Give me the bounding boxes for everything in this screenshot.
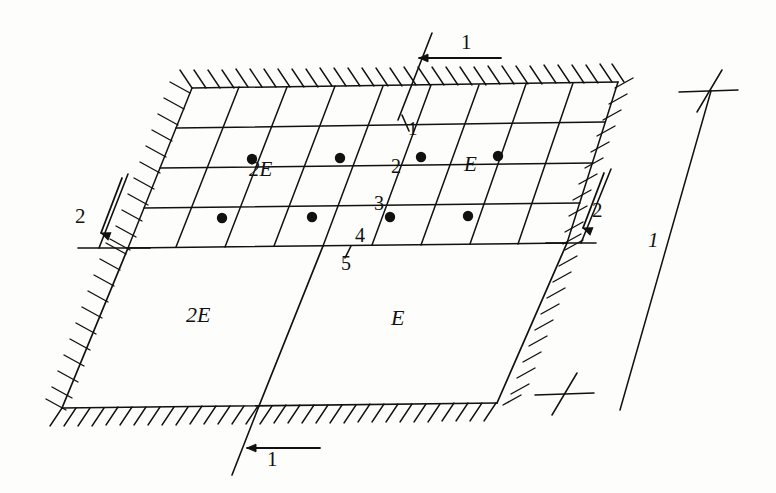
node-dot	[416, 152, 426, 162]
section-line-1-top	[398, 33, 432, 120]
mesh-region	[128, 82, 618, 248]
node-dot	[307, 212, 317, 222]
node-number-4: 4	[355, 224, 365, 247]
section-label-1-bottom: 1	[267, 447, 278, 472]
node-number-3: 3	[374, 192, 384, 215]
plain-region	[62, 243, 567, 408]
diagram-canvas: 1 1 2 2 1 1 2 3 4 5 2E E 2E E	[0, 0, 776, 493]
node-dot	[217, 213, 227, 223]
hatch-lower-left	[46, 243, 126, 410]
hatch-lower-right	[503, 240, 583, 405]
node-number-5: 5	[341, 252, 351, 275]
section-label-2-right: 2	[592, 198, 603, 223]
hatch-bottom	[50, 403, 496, 426]
mesh-label-E: E	[464, 152, 477, 177]
node-number-2: 2	[391, 155, 401, 178]
node-number-1: 1	[408, 118, 418, 140]
dimension-label: 1	[648, 228, 659, 253]
material-divider-lower	[259, 246, 323, 406]
diagram-vector-layer	[0, 0, 776, 493]
section-arrow-2-left	[101, 178, 122, 233]
plain-label-2E: 2E	[186, 302, 210, 328]
section-label-1-top: 1	[461, 30, 472, 55]
node-dot	[335, 153, 345, 163]
hatch-upper-left	[110, 82, 190, 250]
node-dot	[385, 212, 395, 222]
section-line-1-bottom	[232, 406, 259, 475]
mesh-label-2E: 2E	[249, 157, 272, 182]
plain-label-E: E	[391, 305, 404, 331]
node-dot	[463, 211, 473, 221]
node-dot	[493, 151, 503, 161]
section-label-2-left: 2	[75, 204, 86, 229]
